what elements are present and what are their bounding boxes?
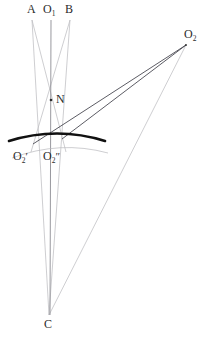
label-point-c: C — [44, 318, 52, 330]
diagram-canvas — [0, 0, 208, 337]
label-point-b: B — [65, 3, 73, 15]
label-point-o2-double-prime: O2″ — [43, 150, 60, 162]
label-o1-sub: 1 — [52, 9, 56, 18]
faint-ray-group — [31, 20, 186, 315]
label-o2-dprime-mark: ″ — [55, 150, 60, 162]
point-o2-dot — [185, 44, 187, 46]
label-c-text: C — [44, 317, 52, 331]
label-a-text: A — [27, 2, 36, 16]
label-o1-base: O — [43, 2, 52, 16]
lens-arc — [9, 134, 105, 142]
label-o2-prime-sub: 2 — [22, 156, 26, 165]
label-point-o1: O1 — [43, 3, 55, 15]
label-point-a: A — [27, 3, 36, 15]
ray-o2-to-c — [49, 45, 186, 315]
label-point-n: N — [56, 93, 65, 105]
label-point-o2: O2 — [184, 28, 196, 40]
ray-o2-to-lens-lower — [62, 45, 186, 139]
point-n-dot — [50, 99, 53, 102]
geometry-diagram: A O1 B O2 N O2′ O2″ C — [0, 0, 208, 337]
label-b-text: B — [65, 2, 73, 16]
label-o2-dprime-sub: 2 — [52, 156, 56, 165]
label-o2-dprime-base: O — [43, 149, 52, 163]
optical-axis-group — [50, 20, 51, 315]
ray-b-to-c — [49, 20, 70, 315]
point-marker-group — [50, 44, 187, 101]
label-o2-prime-mark: ′ — [25, 150, 27, 162]
axis-o1-to-c — [50, 20, 51, 315]
label-point-o2-prime: O2′ — [13, 150, 28, 162]
ray-a-to-c — [32, 20, 49, 315]
label-o2-prime-base: O — [13, 149, 22, 163]
label-o2-base: O — [184, 27, 193, 41]
label-o2-sub: 2 — [193, 34, 197, 43]
label-n-text: N — [56, 92, 65, 106]
